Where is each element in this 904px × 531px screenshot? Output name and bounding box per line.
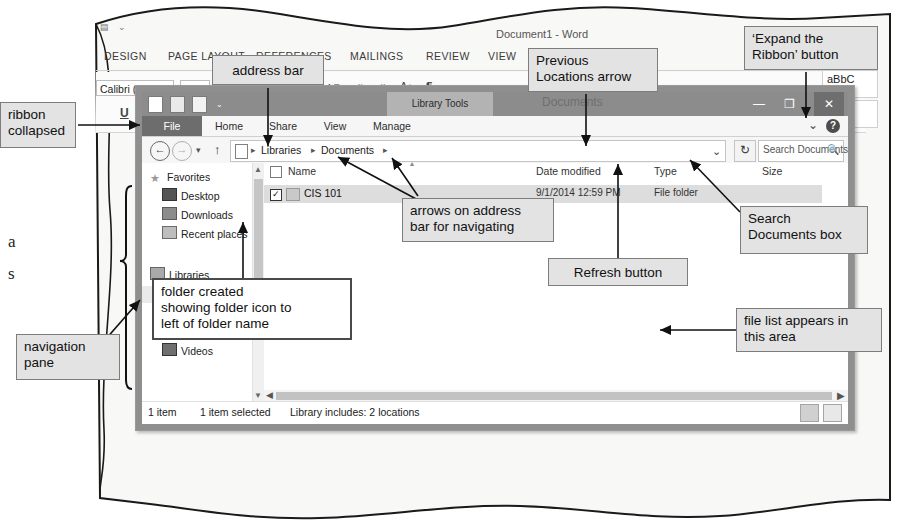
up-button[interactable]: ↑ [214,142,221,157]
status-library-info: Library includes: 2 locations [290,406,420,418]
word-title: Document1 - Word [496,28,588,40]
file-date-modified: 9/1/2014 12:59 PM [536,187,621,198]
callout-search-documents-box: Search Documents box [740,206,868,254]
star-icon: ★ [150,170,163,181]
breadcrumb-documents[interactable]: Documents [321,144,374,156]
recent-locations-caret-icon[interactable]: ▾ [196,145,201,155]
select-all-checkbox[interactable] [270,166,282,178]
customize-qat-caret-icon[interactable]: ⌄ [216,100,223,109]
expand-the-ribbon-button[interactable]: ⌄ [808,118,818,132]
tab-manage[interactable]: Manage [362,116,422,136]
explorer-quick-access-toolbar[interactable]: ⌄ [148,96,223,113]
file-explorer-window: ⌄ Library Tools Documents — ❐ ✕ File Hom… [135,85,855,431]
nav-label: Favorites [167,171,210,183]
file-type: File folder [654,187,698,198]
sidebar-item-recent-places[interactable]: Recent places [162,226,248,243]
nav-label: Downloads [181,209,233,221]
callout-address-bar: address bar [212,55,324,85]
desktop-icon [162,188,177,201]
tab-home[interactable]: Home [202,116,256,136]
tab-view[interactable]: View [310,116,360,136]
address-bar-row: ← → ▾ ↑ ▸ Libraries ▸ Documents ▸ ⌄ ↻ Se… [142,137,848,164]
callout-folder-created: folder created showing folder icon to le… [152,278,352,340]
callout-previous-locations-arrow: Previous Locations arrow [528,48,658,92]
column-header-name[interactable]: Name [288,165,316,177]
horizontal-scrollbar-thumb[interactable] [276,392,832,400]
explorer-title-bar: ⌄ Library Tools Documents — ❐ ✕ [142,92,848,116]
sidebar-item-videos[interactable]: Videos [162,343,213,360]
book-text-fragment: s [8,264,15,284]
word-tab-view[interactable]: VIEW [488,50,516,62]
folder-icon [286,188,300,201]
library-tools-contextual-group: Library Tools [387,92,493,116]
row-checkbox[interactable]: ✓ [270,189,282,201]
scroll-right-arrow-icon[interactable]: ▶ [837,390,845,401]
maximize-button[interactable]: ❐ [774,92,804,116]
file-list-header: Name ▴ Date modified Type Size [264,163,848,182]
scroll-left-arrow-icon[interactable]: ◀ [266,390,273,400]
word-tab-mailings[interactable]: MAILINGS [350,50,403,62]
library-icon [235,144,248,159]
sort-indicator-icon: ▴ [410,159,414,168]
underline-button[interactable]: U [120,106,129,120]
scroll-up-arrow-icon[interactable]: ▲ [254,165,262,174]
word-ribbon-divider [96,70,856,71]
explorer-ribbon-tab-row: File Home Share View Manage ⌄ ? [142,116,848,137]
address-bar[interactable]: ▸ Libraries ▸ Documents ▸ ⌄ [230,140,726,162]
tab-file[interactable]: File [142,116,202,136]
address-separator-0[interactable]: ▸ [251,145,256,155]
callout-arrows-on-address-bar: arrows on address bar for navigating [402,198,554,242]
sidebar-item-downloads[interactable]: Downloads [162,207,233,224]
tab-share[interactable]: Share [256,116,310,136]
sidebar-item-desktop[interactable]: Desktop [162,188,220,205]
file-name[interactable]: CIS 101 [304,187,342,199]
status-selection: 1 item selected [200,406,271,418]
scroll-down-arrow-icon[interactable]: ▼ [254,391,262,400]
minimize-button[interactable]: — [744,92,774,116]
view-buttons[interactable] [800,404,842,422]
book-text-fragment: a [8,232,16,252]
column-header-size[interactable]: Size [762,165,782,177]
explorer-window-title: Documents [542,95,603,109]
address-separator-1[interactable]: ▸ [311,145,316,155]
videos-icon [162,343,177,356]
address-separator-2[interactable]: ▸ [383,145,388,155]
downloads-icon [162,207,177,220]
figure-root: a s ▤ ⌄ Document1 - Word DESIGN PAGE LAY… [0,0,904,531]
explorer-client-area: ⌄ Library Tools Documents — ❐ ✕ File Hom… [142,92,848,424]
column-header-type[interactable]: Type [654,165,677,177]
search-documents-box[interactable]: Search Documents 🔍 [758,140,844,162]
forward-button[interactable]: → [172,141,192,161]
nav-label: Videos [181,345,213,357]
back-button[interactable]: ← [150,141,170,161]
previous-locations-arrow[interactable]: ⌄ [712,145,721,158]
column-header-date-modified[interactable]: Date modified [536,165,601,177]
word-tab-design[interactable]: DESIGN [104,50,147,62]
nav-group-favorites[interactable]: ★Favorites [150,169,210,186]
callout-file-list-area: file list appears in this area [736,308,882,352]
explorer-system-menu-icon[interactable] [148,96,163,113]
help-icon[interactable]: ? [826,119,840,133]
breadcrumb-libraries[interactable]: Libraries [261,144,301,156]
details-view-icon[interactable] [800,404,819,422]
word-tab-review[interactable]: REVIEW [426,50,470,62]
properties-icon[interactable] [170,96,185,113]
close-button[interactable]: ✕ [814,92,844,116]
nav-label: Desktop [181,190,220,202]
callout-refresh-button: Refresh button [548,258,688,286]
search-icon[interactable]: 🔍 [827,144,839,155]
status-bar: 1 item 1 item selected Library includes:… [142,401,848,424]
callout-expand-the-ribbon-button: ‘Expand the Ribbon’ button [744,26,878,70]
callout-ribbon-collapsed: ribbon collapsed [0,102,76,148]
refresh-button[interactable]: ↻ [734,140,756,162]
new-folder-icon[interactable] [192,96,207,113]
callout-navigation-pane: navigation pane [16,334,120,380]
status-item-count: 1 item [148,406,177,418]
recent-places-icon [162,226,177,239]
large-icons-view-icon[interactable] [823,404,842,422]
word-quick-access-toolbar: ▤ ⌄ [100,22,129,32]
nav-label: Recent places [181,228,248,240]
